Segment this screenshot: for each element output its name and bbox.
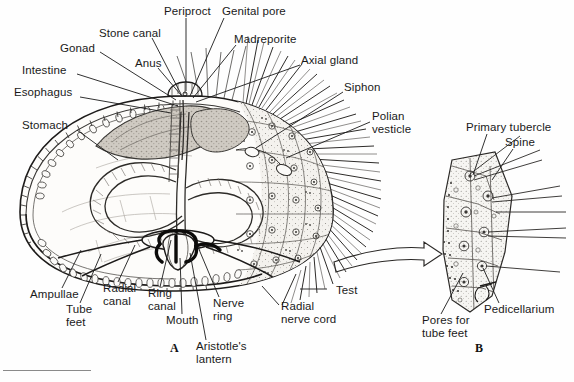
figure-canvas: Esophagus Intestine Gonad Stomach Stone …	[0, 0, 574, 382]
label-tube-feet: Tube feet	[66, 303, 92, 328]
label-radial-nerve-cord: Radial nerve cord	[281, 300, 336, 325]
label-pedicellarium: Pedicellarium	[484, 303, 554, 316]
label-mouth: Mouth	[166, 314, 198, 327]
test-detail-panel-b	[434, 136, 566, 312]
label-esophagus: Esophagus	[14, 86, 72, 99]
label-test: Test	[336, 284, 358, 297]
label-madreporite: Madreporite	[234, 33, 296, 46]
label-ampullae: Ampullae	[30, 288, 79, 301]
test-body	[19, 82, 334, 294]
label-radial-canal: Radial canal	[103, 282, 136, 307]
figure-marker-b: B	[475, 341, 483, 356]
label-aristotles-lantern: Aristotle's lantern	[196, 340, 247, 365]
label-genital-pore: Genital pore	[222, 5, 286, 18]
label-anus: Anus	[135, 57, 162, 70]
label-siphon: Siphon	[344, 81, 380, 94]
label-primary-tubercle: Primary tubercle	[466, 121, 551, 134]
magnification-arrow	[334, 242, 442, 272]
label-gonad: Gonad	[60, 42, 95, 55]
label-stomach: Stomach	[22, 119, 68, 132]
label-ring-canal: Ring canal	[148, 287, 176, 312]
label-polian-vesicle: Polian vesticle	[372, 110, 411, 135]
label-periproct: Periproct	[164, 5, 211, 18]
footer-rule	[3, 370, 91, 371]
label-intestine: Intestine	[22, 64, 66, 77]
label-stone-canal: Stone canal	[99, 27, 161, 40]
figure-marker-a: A	[170, 341, 179, 356]
label-spine: Spine	[505, 136, 535, 149]
label-pores-for-tube-feet: Pores for tube feet	[422, 314, 470, 339]
label-axial-gland: Axial gland	[301, 54, 358, 67]
label-nerve-ring: Nerve ring	[213, 297, 244, 322]
